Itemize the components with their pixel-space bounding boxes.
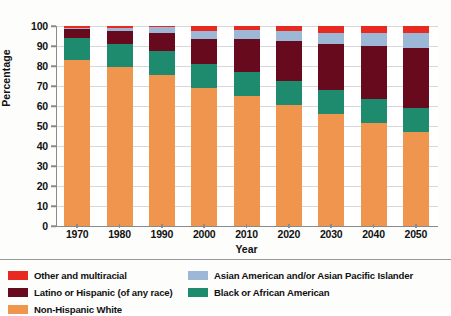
bar-segment[interactable]: [107, 28, 133, 31]
bar-segment[interactable]: [107, 26, 133, 28]
bar-segment[interactable]: [318, 90, 344, 114]
bar-segment[interactable]: [361, 99, 387, 123]
bar-segment[interactable]: [149, 33, 175, 51]
legend-entry[interactable]: Other and multiracial: [8, 268, 127, 282]
bar-segment[interactable]: [276, 31, 302, 41]
bar-segment[interactable]: [318, 114, 344, 226]
legend-swatch: [188, 288, 208, 297]
x-axis-tick-label: 2030: [311, 228, 351, 240]
x-axis-tick-label: 2010: [227, 228, 267, 240]
legend-entry[interactable]: Latino or Hispanic (of any race): [8, 285, 173, 299]
bar-segment[interactable]: [107, 67, 133, 226]
bars-layer: [56, 26, 437, 226]
bar-group[interactable]: [403, 26, 429, 226]
x-axis-tick-label: 1990: [142, 228, 182, 240]
bar-stack: [361, 26, 387, 226]
x-axis-tick-label: 1970: [57, 228, 97, 240]
x-axis-tick-label: 1980: [100, 228, 140, 240]
bar-segment[interactable]: [361, 46, 387, 99]
x-axis-tick-label: 2050: [396, 228, 436, 240]
y-axis-tick-label: 50: [37, 120, 48, 132]
bar-group[interactable]: [276, 26, 302, 226]
y-axis-tick-label: 30: [37, 160, 48, 172]
bar-segment[interactable]: [191, 31, 217, 39]
bar-segment[interactable]: [191, 26, 217, 31]
bar-group[interactable]: [318, 26, 344, 226]
bar-segment[interactable]: [276, 41, 302, 81]
bar-segment[interactable]: [149, 75, 175, 226]
bar-segment[interactable]: [361, 33, 387, 46]
bar-stack: [149, 26, 175, 226]
bar-segment[interactable]: [318, 44, 344, 90]
bar-stack: [64, 26, 90, 226]
bar-segment[interactable]: [403, 26, 429, 33]
bar-segment[interactable]: [276, 26, 302, 31]
bar-group[interactable]: [149, 26, 175, 226]
bar-segment[interactable]: [64, 29, 90, 38]
bar-stack: [107, 26, 133, 226]
bar-segment[interactable]: [149, 27, 175, 33]
bar-segment[interactable]: [361, 123, 387, 226]
legend-entry[interactable]: Non-Hispanic White: [8, 302, 122, 316]
y-axis-tick-label: 20: [37, 180, 48, 192]
y-axis-tick-label: 0: [42, 220, 48, 232]
legend-entry[interactable]: Asian American and/or Asian Pacific Isla…: [188, 268, 413, 282]
legend-label: Other and multiracial: [34, 270, 127, 281]
bar-segment[interactable]: [276, 105, 302, 226]
bar-segment[interactable]: [64, 28, 90, 29]
bar-segment[interactable]: [64, 26, 90, 28]
bar-group[interactable]: [107, 26, 133, 226]
x-axis-tick-label: 2020: [269, 228, 309, 240]
bar-segment[interactable]: [361, 26, 387, 33]
bar-segment[interactable]: [149, 26, 175, 27]
x-axis-tick-label: 2000: [184, 228, 224, 240]
bar-segment[interactable]: [234, 96, 260, 226]
y-axis-tick-label: 100: [31, 20, 48, 32]
legend-entry[interactable]: Black or African American: [188, 285, 330, 299]
y-axis-tick-label: 40: [37, 140, 48, 152]
bar-stack: [276, 26, 302, 226]
legend-swatch: [8, 288, 28, 297]
bar-segment[interactable]: [276, 81, 302, 105]
bar-group[interactable]: [191, 26, 217, 226]
y-axis-tick-label: 90: [37, 40, 48, 52]
bar-stack: [191, 26, 217, 226]
bar-segment[interactable]: [403, 132, 429, 226]
bar-segment[interactable]: [149, 51, 175, 75]
bar-segment[interactable]: [234, 39, 260, 72]
y-axis-tick-labels: 0102030405060708090100: [0, 26, 56, 226]
bar-segment[interactable]: [107, 44, 133, 67]
bar-group[interactable]: [234, 26, 260, 226]
bar-segment[interactable]: [191, 64, 217, 88]
bar-stack: [234, 26, 260, 226]
bar-segment[interactable]: [403, 48, 429, 108]
bar-segment[interactable]: [403, 108, 429, 132]
legend-label: Latino or Hispanic (of any race): [34, 287, 173, 298]
y-axis-tick-label: 70: [37, 80, 48, 92]
bar-segment[interactable]: [234, 30, 260, 39]
y-axis-tick-label: 80: [37, 60, 48, 72]
bar-segment[interactable]: [64, 60, 90, 226]
legend-swatch: [8, 305, 28, 314]
y-axis-tick-label: 60: [37, 100, 48, 112]
plot-wrapper: Percentage 0102030405060708090100 197019…: [0, 0, 451, 258]
bar-group[interactable]: [64, 26, 90, 226]
bar-segment[interactable]: [107, 31, 133, 44]
legend-swatch: [188, 271, 208, 280]
bar-segment[interactable]: [191, 39, 217, 64]
bar-segment[interactable]: [318, 26, 344, 33]
bar-segment[interactable]: [318, 33, 344, 44]
legend-label: Black or African American: [214, 287, 330, 298]
y-axis-tick-label: 10: [37, 200, 48, 212]
bar-segment[interactable]: [234, 72, 260, 96]
bar-segment[interactable]: [403, 33, 429, 48]
bar-segment[interactable]: [191, 88, 217, 226]
bar-group[interactable]: [361, 26, 387, 226]
bar-stack: [318, 26, 344, 226]
bar-segment[interactable]: [234, 26, 260, 30]
legend-label: Non-Hispanic White: [34, 304, 122, 315]
bar-segment[interactable]: [64, 38, 90, 60]
bar-stack: [403, 26, 429, 226]
legend-label: Asian American and/or Asian Pacific Isla…: [214, 270, 413, 281]
